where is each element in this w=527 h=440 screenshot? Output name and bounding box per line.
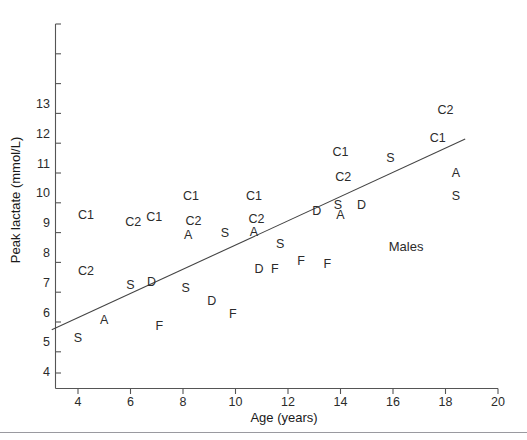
x-tick-label: 14	[334, 395, 348, 409]
data-point-label: D	[255, 262, 264, 276]
data-point-label: S	[452, 189, 460, 203]
x-tick-label: 10	[229, 395, 243, 409]
data-point-label: F	[156, 319, 164, 333]
data-point-label: C2	[335, 170, 351, 184]
y-tick-label: 12	[36, 127, 50, 141]
data-point-label: F	[271, 262, 279, 276]
data-point-label: D	[147, 275, 156, 289]
data-point-label: C2	[438, 103, 454, 117]
group-annotation: Males	[389, 239, 424, 254]
data-point-label: C1	[183, 189, 199, 203]
data-point-label: A	[452, 166, 461, 180]
data-point-label: S	[74, 331, 82, 345]
figure-container: 45678910111213 468101214161820 SC1C2AC2S…	[0, 0, 527, 440]
y-tick-label: 11	[37, 157, 50, 171]
data-point-label: S	[386, 151, 394, 165]
y-tick-label: 13	[36, 97, 50, 111]
data-point-label: D	[207, 294, 216, 308]
y-axis-title: Peak lactate (mmol/L)	[8, 137, 23, 263]
data-point-label: F	[229, 307, 237, 321]
y-tick-label: 6	[43, 306, 50, 320]
data-point-label: C1	[146, 210, 162, 224]
x-tick-label: 12	[281, 395, 295, 409]
data-point-label: D	[312, 204, 321, 218]
data-point-label: A	[100, 313, 109, 327]
y-axis-ticks	[56, 24, 62, 373]
x-axis-title: Age (years)	[250, 410, 317, 425]
y-axis-tick-labels: 45678910111213	[36, 97, 50, 379]
x-axis-ticks	[78, 389, 498, 395]
y-tick-label: 7	[43, 276, 50, 290]
y-tick-label: 9	[43, 216, 50, 230]
regression-line	[52, 139, 465, 330]
data-point-label: C1	[430, 131, 446, 145]
x-tick-label: 16	[386, 395, 400, 409]
x-tick-label: 18	[439, 395, 453, 409]
data-point-label: F	[324, 257, 332, 271]
data-point-label: A	[250, 225, 259, 239]
data-point-label: S	[181, 281, 189, 295]
data-point-label: C1	[246, 189, 262, 203]
y-tick-label: 4	[43, 365, 50, 379]
scatter-plot: 45678910111213 468101214161820 SC1C2AC2S…	[0, 0, 527, 440]
data-point-label: C2	[125, 215, 141, 229]
x-tick-label: 20	[491, 395, 505, 409]
data-point-label: C2	[186, 214, 202, 228]
data-point-label: C2	[78, 264, 94, 278]
data-point-label: A	[184, 228, 193, 242]
x-tick-label: 8	[180, 395, 187, 409]
data-point-label: S	[221, 226, 229, 240]
data-point-label: A	[336, 208, 345, 222]
y-tick-label: 8	[43, 246, 50, 260]
x-axis-tick-labels: 468101214161820	[75, 395, 505, 409]
x-tick-label: 6	[127, 395, 134, 409]
x-tick-label: 4	[75, 395, 82, 409]
y-tick-label: 5	[43, 335, 50, 349]
data-point-label: S	[126, 278, 134, 292]
axes	[56, 24, 499, 389]
data-point-label: D	[357, 198, 366, 212]
data-point-label: F	[297, 254, 305, 268]
data-points: SC1C2AC2SC1DFC1C2ASDSFC1C2ADFSFDFC1C2SAD…	[74, 103, 461, 345]
plot-annotations: Males	[389, 239, 424, 254]
data-point-label: C1	[333, 145, 349, 159]
y-tick-label: 10	[36, 186, 50, 200]
data-point-label: C1	[78, 208, 94, 222]
data-point-label: S	[276, 237, 284, 251]
